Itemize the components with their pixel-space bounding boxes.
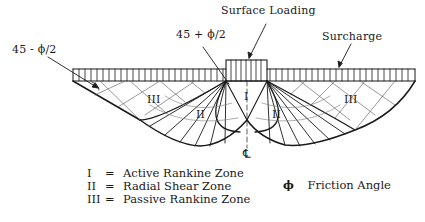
angle-center-label: 45 + ϕ/2 [176,29,226,40]
left-radial-zone-lines [140,81,240,146]
zone-label-left-radial: II [196,109,205,120]
phi-legend-text: Friction Angle [307,178,390,192]
zone-legend: I = Active Rankine Zone II = Radial Shea… [87,167,250,206]
surface-loading-label: Surface Loading [221,5,316,16]
surcharge-strip [73,69,415,81]
footing-load-block [226,60,267,81]
phi-legend: ϕ Friction Angle [283,179,391,192]
zone-label-active: I [244,91,249,102]
angle-left-label: 45 - ϕ/2 [12,44,57,55]
legend-item-passive: III = Passive Rankine Zone [87,193,250,206]
surcharge-label: Surcharge [322,31,382,42]
zone-label-right-passive: III [344,94,358,105]
zone-label-left-passive: III [147,94,161,105]
centerline-symbol: ℄ [243,148,251,160]
zone-label-right-radial: II [272,109,281,120]
phi-symbol: ϕ [283,178,294,192]
